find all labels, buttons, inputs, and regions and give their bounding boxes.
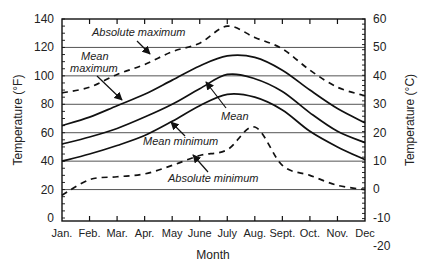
annotations: Absolute maximum Mean maximum Mean Mean … xyxy=(70,26,258,184)
y-tick-label-left: 60 xyxy=(41,126,55,140)
x-axis-labels: Jan.Feb.Mar.Apr.MayJuneJulyAug.Sept.Oct.… xyxy=(52,227,376,239)
x-tick-label: Oct. xyxy=(300,227,320,239)
y-tick-label-left: 120 xyxy=(34,40,54,54)
y-tick-label-right: -20 xyxy=(373,239,391,253)
y-tick-label-right: 20 xyxy=(373,126,387,140)
y-axis-right-labels: -20-100102030405060 xyxy=(373,12,391,253)
arrow-mean-minimum xyxy=(171,122,185,136)
x-tick-label: June xyxy=(188,227,212,239)
annotation-mean: Mean xyxy=(221,110,249,122)
x-tick-label: Sept. xyxy=(270,227,296,239)
y-tick-label-right: 30 xyxy=(373,97,387,111)
y-axis-left-labels: 020406080100120140 xyxy=(34,12,54,225)
y-tick-label-left: 80 xyxy=(41,97,55,111)
x-tick-label: July xyxy=(217,227,237,239)
arrow-mean-maximum xyxy=(97,76,122,100)
y-tick-label-right: 40 xyxy=(373,69,387,83)
y-tick-label-right: 10 xyxy=(373,154,387,168)
y-tick-label-right: 0 xyxy=(373,182,380,196)
x-tick-label: Jan. xyxy=(52,227,73,239)
annotation-absolute-minimum: Absolute minimum xyxy=(167,172,258,184)
arrow-absolute-minimum xyxy=(193,155,208,172)
y-tick-label-left: 0 xyxy=(47,211,54,225)
y-axis-left-title: Temperature (°F) xyxy=(11,75,25,166)
y-tick-label-left: 40 xyxy=(41,154,55,168)
annotation-absolute-maximum: Absolute maximum xyxy=(91,26,186,38)
y-tick-label-right: 60 xyxy=(373,12,387,26)
y-tick-label-left: 20 xyxy=(41,183,55,197)
y-tick-label-right: -10 xyxy=(373,211,391,225)
x-tick-label: Nov. xyxy=(327,227,349,239)
y-tick-label-right: 50 xyxy=(373,40,387,54)
x-tick-label: May xyxy=(162,227,183,239)
x-tick-label: Aug. xyxy=(243,227,266,239)
x-tick-label: Mar. xyxy=(106,227,127,239)
annotation-mean-minimum: Mean minimum xyxy=(143,135,218,147)
x-tick-label: Dec xyxy=(355,227,375,239)
annotation-mean-maximum-line1: Mean xyxy=(81,50,109,62)
y-tick-label-left: 100 xyxy=(34,69,54,83)
x-axis-title: Month xyxy=(196,248,229,262)
x-tick-label: Apr. xyxy=(135,227,155,239)
annotation-mean-maximum-line2: maximum xyxy=(70,62,118,74)
temperature-chart: 020406080100120140 -20-100102030405060 J… xyxy=(0,0,426,273)
x-tick-label: Feb. xyxy=(79,227,101,239)
y-axis-right-title: Temperature (°C) xyxy=(403,74,417,166)
y-tick-label-left: 140 xyxy=(34,12,54,26)
